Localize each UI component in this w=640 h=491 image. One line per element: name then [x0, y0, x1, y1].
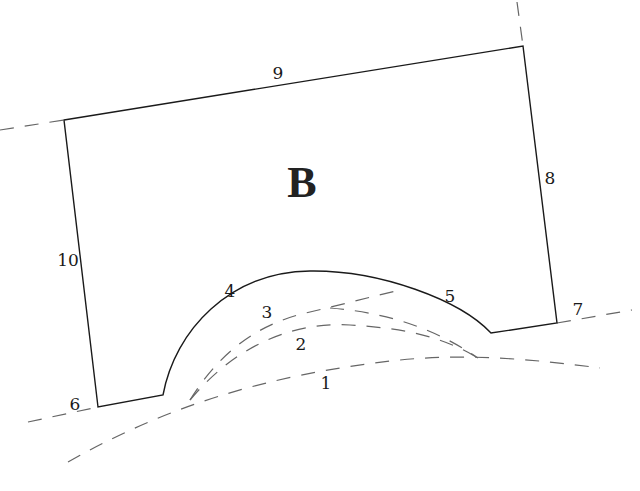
line-7-extension	[557, 310, 632, 323]
label-9: 9	[273, 63, 284, 83]
label-6: 6	[70, 394, 81, 414]
label-4: 4	[225, 281, 236, 301]
line-9-extension	[0, 120, 64, 130]
boundary-diagram: B 1 2 3 4 5 6 7 8 9 10	[0, 0, 640, 491]
region-b-boundary	[64, 46, 557, 407]
label-2: 2	[296, 334, 307, 354]
line-8-extension	[517, 2, 523, 46]
curve-2	[190, 325, 478, 400]
line-6-extension	[28, 407, 98, 422]
curve-1	[68, 357, 600, 462]
label-1: 1	[321, 373, 332, 393]
curve-3-branch	[330, 308, 478, 358]
label-8: 8	[545, 168, 556, 188]
label-7: 7	[573, 299, 584, 319]
region-label-b: B	[287, 158, 316, 207]
label-3: 3	[262, 302, 273, 322]
label-10: 10	[57, 250, 79, 270]
label-5: 5	[445, 286, 456, 306]
